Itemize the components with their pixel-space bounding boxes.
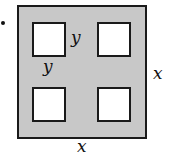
cutout-square-top-left bbox=[32, 22, 66, 57]
cutout-square-bottom-left bbox=[32, 87, 66, 122]
label-cutout-side-bottom: y bbox=[43, 58, 53, 75]
label-outer-side-right: x bbox=[153, 65, 163, 82]
outer-square-sheet bbox=[17, 5, 147, 139]
cutout-square-bottom-right bbox=[97, 87, 131, 122]
label-cutout-side-right: y bbox=[71, 29, 81, 46]
cutout-square-top-right bbox=[97, 22, 131, 57]
diagram-canvas: y y x x bbox=[0, 0, 176, 155]
bullet-dot bbox=[1, 21, 5, 25]
label-outer-side-bottom: x bbox=[77, 138, 87, 155]
